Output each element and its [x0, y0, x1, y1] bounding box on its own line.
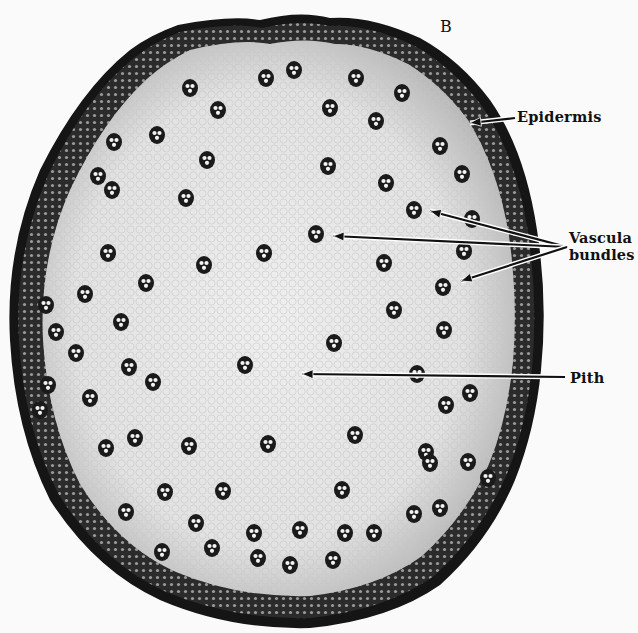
- vascular-bundle: [100, 244, 116, 262]
- vascular-bundle: [347, 426, 363, 444]
- vascular-bundle: [106, 133, 122, 151]
- vascular-bundle: [322, 99, 338, 117]
- label-pith: Pith: [570, 369, 604, 386]
- vascular-bundle: [406, 201, 422, 219]
- vascular-bundle: [462, 384, 478, 402]
- vascular-bundle: [98, 439, 114, 457]
- vascular-bundle: [348, 69, 364, 87]
- vascular-bundle: [199, 151, 215, 169]
- vascular-bundle: [118, 503, 134, 521]
- vascular-bundle: [145, 373, 161, 391]
- vascular-bundle: [326, 334, 342, 352]
- vascular-bundle: [246, 524, 262, 542]
- panel-label: B: [440, 17, 452, 36]
- vascular-bundle: [432, 499, 448, 517]
- vascular-bundle: [432, 137, 448, 155]
- vascular-bundle: [32, 401, 48, 419]
- vascular-bundle: [113, 313, 129, 331]
- vascular-bundle: [182, 79, 198, 97]
- vascular-bundle: [334, 481, 350, 499]
- vascular-bundle: [282, 556, 298, 574]
- vascular-bundle: [454, 165, 470, 183]
- vascular-bundle: [68, 344, 84, 362]
- vascular-bundle: [460, 453, 476, 471]
- vascular-bundle: [90, 167, 106, 185]
- vascular-bundle: [366, 524, 382, 542]
- vascular-bundle: [386, 301, 402, 319]
- vascular-bundle: [82, 389, 98, 407]
- vascular-bundle: [48, 323, 64, 341]
- vascular-bundle: [104, 181, 120, 199]
- vascular-bundle: [337, 524, 353, 542]
- vascular-bundle: [121, 358, 137, 376]
- vascular-bundle: [368, 112, 384, 130]
- vascular-bundle: [157, 483, 173, 501]
- vascular-bundle: [38, 296, 54, 314]
- vascular-bundle: [149, 126, 165, 144]
- vascular-bundle: [292, 521, 308, 539]
- vascular-bundle: [178, 189, 194, 207]
- stem-cross-section-figure: [0, 0, 638, 633]
- vascular-bundle: [77, 285, 93, 303]
- vascular-bundle: [181, 437, 197, 455]
- vascular-bundle: [188, 514, 204, 532]
- vascular-bundle: [376, 254, 392, 272]
- vascular-bundle: [138, 274, 154, 292]
- vascular-bundle: [325, 551, 341, 569]
- label-vascular-bundles-line2: bundles: [569, 246, 635, 263]
- vascular-bundle: [258, 69, 274, 87]
- vascular-bundle: [256, 244, 272, 262]
- label-epidermis: Epidermis: [517, 108, 602, 125]
- vascular-bundle: [480, 469, 496, 487]
- label-vascular-bundles-line1: Vascula: [569, 229, 632, 246]
- vascular-bundle: [378, 174, 394, 192]
- vascular-bundle: [210, 101, 226, 119]
- vascular-bundle: [196, 256, 212, 274]
- vascular-bundle: [286, 61, 302, 79]
- vascular-bundle: [215, 482, 231, 500]
- vascular-bundle: [406, 505, 422, 523]
- vascular-bundle: [154, 543, 170, 561]
- vascular-bundle: [237, 356, 253, 374]
- vascular-bundle: [260, 435, 276, 453]
- vascular-bundle: [308, 225, 324, 243]
- vascular-bundle: [127, 429, 143, 447]
- vascular-bundle: [394, 84, 410, 102]
- vascular-bundle: [320, 157, 336, 175]
- vascular-bundle: [250, 549, 266, 567]
- vascular-bundle: [204, 539, 220, 557]
- vascular-bundle: [422, 454, 438, 472]
- vascular-bundle: [436, 321, 452, 339]
- vascular-bundle: [435, 278, 451, 296]
- vascular-bundle: [438, 396, 454, 414]
- vascular-bundle: [40, 376, 56, 394]
